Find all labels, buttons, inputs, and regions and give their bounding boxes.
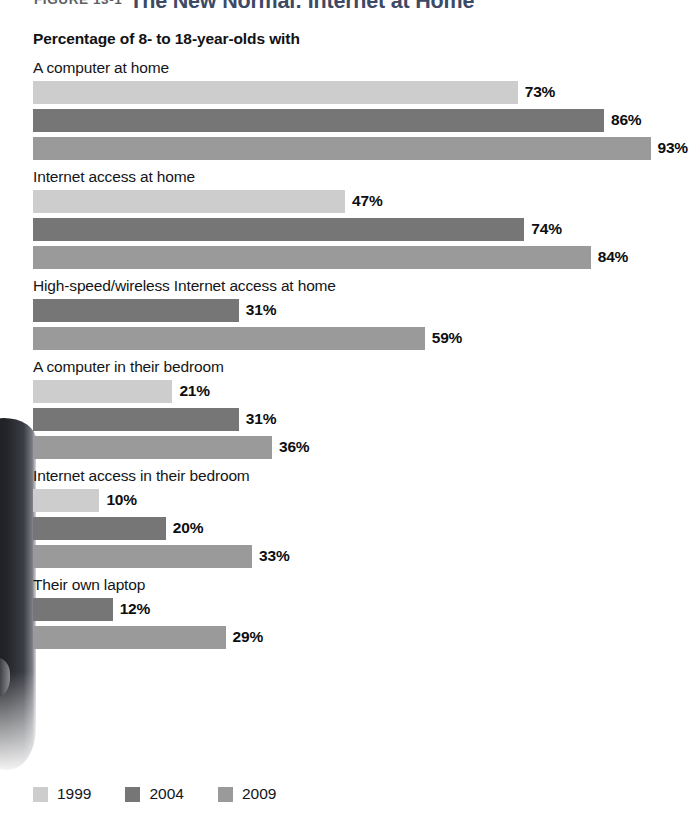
legend-swatch-icon <box>125 787 140 802</box>
bar-value-label: 21% <box>179 382 209 400</box>
bar-row: 36% <box>0 436 696 459</box>
bar-value-label: 74% <box>531 220 561 238</box>
bar-value-label: 20% <box>173 519 203 537</box>
bar-row: 10% <box>0 489 696 512</box>
bar-value-label: 93% <box>658 139 688 157</box>
bar-group: Their own laptop12%29% <box>0 576 696 649</box>
bar-value-label: 31% <box>246 410 276 428</box>
bar-value-label: 59% <box>432 329 462 347</box>
bar-2004 <box>33 109 604 132</box>
bar-value-label: 86% <box>611 111 641 129</box>
bar-group-label: A computer in their bedroom <box>33 358 696 376</box>
figure-title-strip: FIGURE 13-1The New Normal: Internet at H… <box>0 0 696 20</box>
bar-chart: Percentage of 8- to 18-year-olds with A … <box>0 0 696 830</box>
bar-row: 20% <box>0 517 696 540</box>
bar-group: A computer in their bedroom21%31%36% <box>0 358 696 459</box>
chart-legend: 199920042009 <box>33 785 310 803</box>
bar-value-label: 12% <box>120 600 150 618</box>
bar-row: 86% <box>0 109 696 132</box>
bar-2009 <box>33 545 252 568</box>
figure-name: The New Normal: Internet at Home <box>129 0 474 13</box>
bar-2009 <box>33 626 226 649</box>
bar-group-label: Internet access in their bedroom <box>33 467 696 485</box>
legend-item-2004: 2004 <box>125 785 183 803</box>
figure-number: FIGURE 13-1 <box>34 0 122 7</box>
bar-row: 74% <box>0 218 696 241</box>
bar-row: 47% <box>0 190 696 213</box>
bar-group-label: A computer at home <box>33 59 696 77</box>
bar-2009 <box>33 137 651 160</box>
bar-group: A computer at home73%86%93% <box>0 59 696 160</box>
bar-value-label: 36% <box>279 438 309 456</box>
bar-row: 31% <box>0 299 696 322</box>
bar-2009 <box>33 327 425 350</box>
bar-2004 <box>33 218 524 241</box>
legend-swatch-icon <box>33 787 48 802</box>
bar-group: High-speed/wireless Internet access at h… <box>0 277 696 350</box>
bar-2009 <box>33 246 591 269</box>
bar-value-label: 10% <box>106 491 136 509</box>
bar-group-label: High-speed/wireless Internet access at h… <box>33 277 696 295</box>
figure-title: FIGURE 13-1The New Normal: Internet at H… <box>34 0 474 14</box>
bar-group-label: Internet access at home <box>33 168 696 186</box>
bar-1999 <box>33 81 518 104</box>
bar-row: 59% <box>0 327 696 350</box>
bar-2004 <box>33 517 166 540</box>
bar-value-label: 47% <box>352 192 382 210</box>
bar-2004 <box>33 299 239 322</box>
bar-row: 84% <box>0 246 696 269</box>
bar-row: 12% <box>0 598 696 621</box>
bar-row: 21% <box>0 380 696 403</box>
plot-area: A computer at home73%86%93%Internet acce… <box>0 59 696 657</box>
legend-swatch-icon <box>218 787 233 802</box>
legend-label: 2004 <box>149 785 183 803</box>
bar-1999 <box>33 190 345 213</box>
bar-row: 33% <box>0 545 696 568</box>
bar-value-label: 33% <box>259 547 289 565</box>
bar-value-label: 31% <box>246 301 276 319</box>
bar-row: 73% <box>0 81 696 104</box>
bar-value-label: 29% <box>233 628 263 646</box>
chart-subtitle: Percentage of 8- to 18-year-olds with <box>33 30 300 48</box>
bar-group: Internet access in their bedroom10%20%33… <box>0 467 696 568</box>
bar-row: 29% <box>0 626 696 649</box>
bar-2004 <box>33 598 113 621</box>
bar-value-label: 73% <box>525 83 555 101</box>
bar-row: 93% <box>0 137 696 160</box>
bar-2004 <box>33 408 239 431</box>
bar-row: 31% <box>0 408 696 431</box>
legend-item-2009: 2009 <box>218 785 276 803</box>
bar-2009 <box>33 436 272 459</box>
bar-group: Internet access at home47%74%84% <box>0 168 696 269</box>
legend-label: 2009 <box>242 785 276 803</box>
legend-label: 1999 <box>57 785 91 803</box>
bar-group-label: Their own laptop <box>33 576 696 594</box>
legend-item-1999: 1999 <box>33 785 91 803</box>
bar-value-label: 84% <box>598 248 628 266</box>
bar-1999 <box>33 380 172 403</box>
bar-1999 <box>33 489 99 512</box>
